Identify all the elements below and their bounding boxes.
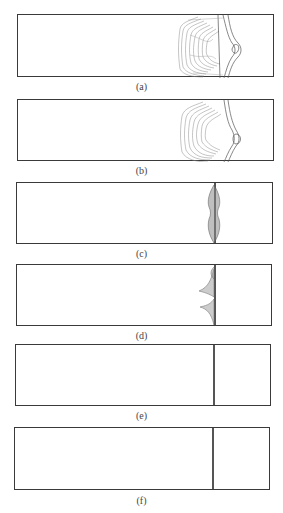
panel-f bbox=[14, 427, 270, 490]
contour-plot-c bbox=[17, 183, 274, 245]
contour-plot-d bbox=[17, 265, 273, 327]
contour-plot-b bbox=[18, 100, 275, 162]
interface-line-e bbox=[213, 345, 215, 405]
panel-b bbox=[17, 99, 274, 161]
panel-label-d: (d) bbox=[0, 330, 283, 341]
panel-e bbox=[15, 344, 271, 406]
panel-c bbox=[16, 182, 273, 244]
interface-line-f bbox=[212, 428, 214, 489]
panel-label-f: (f) bbox=[0, 495, 283, 506]
panel-label-a: (a) bbox=[0, 81, 283, 92]
panel-a bbox=[17, 14, 274, 77]
panel-label-b: (b) bbox=[0, 165, 283, 176]
panel-label-e: (e) bbox=[0, 410, 283, 421]
panel-d bbox=[16, 264, 272, 326]
contour-plot-a bbox=[18, 15, 275, 78]
panel-label-c: (c) bbox=[0, 248, 283, 259]
